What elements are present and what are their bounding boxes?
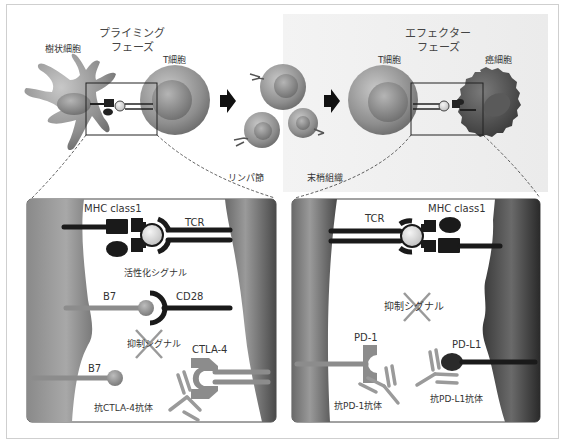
left-mhc-label: MHC class1	[84, 204, 142, 214]
peripheral-tissue-label: 末梢組織	[307, 174, 343, 183]
cd28-label: CD28	[176, 292, 203, 302]
b7-label-upper: B7	[103, 292, 116, 302]
anti-ctla4-antibody-label: 抗CTLA-4抗体	[94, 404, 153, 413]
activation-signal-label: 活性化シグナル	[124, 269, 187, 278]
anti-pd1-antibody-label: 抗PD-1抗体	[334, 402, 382, 411]
left-detail-panel	[27, 199, 276, 422]
immune-checkpoint-diagram	[0, 0, 566, 444]
right-mhc-label: MHC class1	[428, 204, 486, 214]
effector-phase-title-line1: エフェクター	[393, 27, 483, 41]
priming-t-cell	[140, 65, 210, 135]
effector-phase-title: エフェクター フェーズ	[393, 27, 483, 55]
left-inhibitory-signal-label: 抑制シグナル	[127, 340, 181, 349]
dendritic-cell-label: 樹状細胞	[45, 45, 81, 54]
activated-t-cell-small-right	[288, 108, 324, 138]
priming-phase-title-line1: プライミング	[87, 27, 177, 41]
left-tcr-label: TCR	[185, 218, 204, 228]
zoom-connector-lines	[30, 135, 540, 200]
pd1-label: PD-1	[354, 333, 378, 343]
effector-t-cell	[348, 65, 418, 135]
priming-phase-title-line2: フェーズ	[87, 41, 177, 55]
priming-t-cell-label: T細胞	[163, 56, 187, 65]
b7-label-lower: B7	[88, 364, 101, 374]
pdl1-label: PD-L1	[452, 340, 481, 350]
effector-phase-title-line2: フェーズ	[393, 41, 483, 55]
cancer-cell	[457, 67, 521, 137]
priming-phase-title: プライミング フェーズ	[87, 27, 177, 55]
activated-t-cell-large	[250, 64, 306, 110]
right-inhibitory-signal-label: 抑制シグナル	[384, 302, 444, 312]
anti-pdl1-antibody-label: 抗PD-L1抗体	[430, 395, 483, 404]
arrow-right-icon	[220, 89, 236, 113]
arrow-right-icon	[324, 89, 340, 113]
dendritic-cell	[24, 54, 116, 150]
right-tcr-label: TCR	[365, 214, 384, 224]
lymph-node-label: リンパ節	[228, 174, 264, 183]
activated-t-cell-small-left	[234, 112, 280, 148]
ctla4-label: CTLA-4	[192, 345, 227, 355]
cancer-cell-label: 癌細胞	[485, 56, 512, 65]
effector-t-cell-label: T細胞	[378, 56, 402, 65]
